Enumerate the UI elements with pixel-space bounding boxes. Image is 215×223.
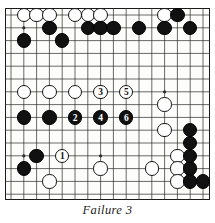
go-stone-move-1[interactable]: 1: [55, 149, 69, 163]
go-stone-number: 2: [69, 114, 81, 123]
go-stone-white[interactable]: [17, 85, 31, 99]
go-stone-white[interactable]: [93, 161, 107, 175]
go-stone-number: 5: [120, 88, 132, 97]
figure-caption: Failure 3: [0, 203, 215, 218]
go-stone-black[interactable]: [157, 21, 171, 35]
go-stone-black[interactable]: [17, 161, 31, 175]
go-stone-black[interactable]: [196, 174, 210, 188]
go-stone-number: 3: [94, 88, 106, 97]
go-stone-black[interactable]: [132, 21, 146, 35]
go-stone-white[interactable]: [42, 174, 56, 188]
go-stone-white[interactable]: [42, 85, 56, 99]
go-stone-move-6[interactable]: 6: [119, 110, 133, 124]
go-stone-number: 1: [56, 152, 68, 161]
go-stone-white[interactable]: [157, 97, 171, 111]
go-stone-number: 6: [120, 114, 132, 123]
go-board-container[interactable]: 352461: [5, 8, 210, 200]
go-stone-number: 4: [94, 114, 106, 123]
go-stone-black[interactable]: [42, 21, 56, 35]
go-stone-black[interactable]: [17, 33, 31, 47]
go-stone-move-3[interactable]: 3: [93, 85, 107, 99]
go-diagram-figure: 352461 Failure 3: [0, 0, 215, 223]
go-stone-move-2[interactable]: 2: [68, 110, 82, 124]
go-stone-move-5[interactable]: 5: [119, 85, 133, 99]
go-stone-black[interactable]: [17, 110, 31, 124]
go-stone-move-4[interactable]: 4: [93, 110, 107, 124]
go-stone-black[interactable]: [170, 8, 184, 22]
go-stone-white[interactable]: [157, 123, 171, 137]
go-stone-white[interactable]: [68, 85, 82, 99]
go-stone-white[interactable]: [145, 161, 159, 175]
go-stone-black[interactable]: [106, 21, 120, 35]
go-stone-black[interactable]: [42, 110, 56, 124]
go-stone-black[interactable]: [55, 33, 69, 47]
go-stone-black[interactable]: [29, 149, 43, 163]
